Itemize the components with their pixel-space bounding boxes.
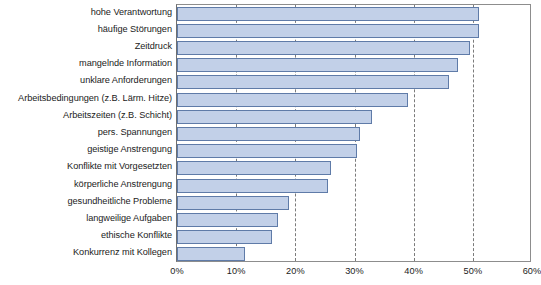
bar bbox=[177, 93, 408, 107]
category-label: häufige Störungen bbox=[0, 25, 172, 34]
value-axis-ticks: 0%10%20%30%40%50%60% bbox=[176, 262, 531, 282]
category-label: Arbeitszeiten (z.B. Schicht) bbox=[0, 111, 172, 120]
bar-row bbox=[177, 91, 532, 109]
bar bbox=[177, 75, 449, 89]
bar-row bbox=[177, 108, 532, 126]
bar bbox=[177, 7, 479, 21]
category-label: Konkurrenz mit Kollegen bbox=[0, 248, 172, 257]
bar bbox=[177, 127, 360, 141]
category-label: Arbeitsbedingungen (z.B. Lärm. Hitze) bbox=[0, 94, 172, 103]
bar bbox=[177, 230, 272, 244]
category-label: Konflikte mit Vorgesetzten bbox=[0, 162, 172, 171]
bar-row bbox=[177, 211, 532, 229]
tick-label-30: 30% bbox=[345, 266, 364, 276]
bar-row bbox=[177, 5, 532, 23]
bar bbox=[177, 41, 470, 55]
bar bbox=[177, 58, 458, 72]
tick-label-60: 60% bbox=[523, 266, 541, 276]
category-axis-labels: hohe Verantwortunghäufige StörungenZeitd… bbox=[0, 0, 172, 266]
bar-row bbox=[177, 143, 532, 161]
bar-row bbox=[177, 229, 532, 247]
bar bbox=[177, 161, 331, 175]
bar bbox=[177, 247, 245, 261]
plot-area bbox=[176, 4, 531, 262]
tick-label-20: 20% bbox=[286, 266, 305, 276]
category-label: körperliche Anstrengung bbox=[0, 180, 172, 189]
bar-row bbox=[177, 57, 532, 75]
bar bbox=[177, 24, 479, 38]
category-label: Zeitdruck bbox=[0, 42, 172, 51]
bar-row bbox=[177, 194, 532, 212]
bar bbox=[177, 144, 357, 158]
bar bbox=[177, 110, 372, 124]
category-label: pers. Spannungen bbox=[0, 128, 172, 137]
category-label: geistige Anstrengung bbox=[0, 145, 172, 154]
category-label: ethische Konflikte bbox=[0, 231, 172, 240]
bar-row bbox=[177, 22, 532, 40]
bar-row bbox=[177, 160, 532, 178]
bar-row bbox=[177, 39, 532, 57]
bar-row bbox=[177, 177, 532, 195]
category-label: hohe Verantwortung bbox=[0, 8, 172, 17]
tick-label-10: 10% bbox=[227, 266, 246, 276]
bar bbox=[177, 213, 278, 227]
category-label: langweilige Aufgaben bbox=[0, 214, 172, 223]
bar-row bbox=[177, 125, 532, 143]
tick-label-50: 50% bbox=[463, 266, 482, 276]
category-label: unklare Anforderungen bbox=[0, 76, 172, 85]
category-label: gesundheitliche Probleme bbox=[0, 197, 172, 206]
bar bbox=[177, 196, 289, 210]
tick-label-0: 0% bbox=[170, 266, 183, 276]
bar bbox=[177, 179, 328, 193]
bar-row bbox=[177, 74, 532, 92]
category-label: mangelnde Information bbox=[0, 59, 172, 68]
tick-label-40: 40% bbox=[404, 266, 423, 276]
